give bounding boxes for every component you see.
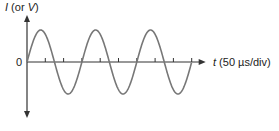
axes [24,15,206,118]
y-axis-label: I (or V) [5,1,39,13]
x-axis-label: t (50 µs/div) [213,56,271,68]
origin-label: 0 [16,56,22,68]
